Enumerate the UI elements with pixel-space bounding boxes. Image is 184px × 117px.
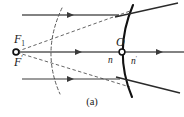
optical-axis-arrowhead-right	[156, 49, 163, 55]
incident-ray-upper-arrowhead	[67, 12, 74, 18]
refractive-index-label-n: n	[108, 56, 113, 66]
focal-label-subscript: 1	[21, 39, 25, 48]
refracted-ray-lower	[116, 77, 180, 93]
focal-point-label-F1: F1	[14, 33, 25, 48]
focal-plane-arc-dashed	[51, 8, 62, 94]
refracted-ray-upper	[115, 3, 178, 17]
figure-caption: (a)	[0, 96, 184, 107]
vertex-label-O: O	[116, 36, 125, 48]
focal-construction-line-upper	[17, 11, 130, 52]
optical-axis-arrowhead-left	[75, 49, 82, 55]
focal-prime-label-mark: ′	[21, 54, 23, 63]
optics-figure: F1 F′ O n n′ (a)	[0, 0, 184, 117]
vertex-point-marker	[119, 49, 125, 55]
incident-ray-lower-arrowhead	[67, 76, 74, 82]
index-prime-mark: ′	[136, 55, 137, 61]
focal-point-label-F-prime: F′	[14, 55, 23, 68]
refractive-index-label-n-prime: n′	[131, 56, 137, 67]
focal-construction-line-lower	[17, 53, 130, 88]
